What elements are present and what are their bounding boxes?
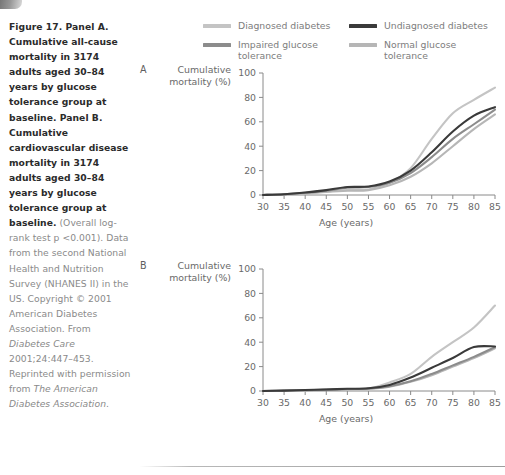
svg-text:100: 100 — [238, 263, 256, 274]
svg-text:75: 75 — [447, 397, 459, 408]
svg-text:50: 50 — [341, 397, 353, 408]
svg-text:30: 30 — [257, 201, 269, 212]
svg-text:80: 80 — [244, 92, 256, 103]
legend-item-normal-glucose-tolerance: Normal glucose tolerance — [349, 39, 503, 62]
svg-text:0: 0 — [250, 189, 256, 200]
svg-text:100: 100 — [238, 67, 256, 78]
caption-journal-name: Diabetes Care — [9, 338, 75, 349]
legend-label-undiagnosed-diabetes: Undiagnosed diabetes — [384, 20, 488, 32]
panel-a-letter: A — [140, 64, 147, 75]
legend-swatch-impaired-glucose-tolerance — [203, 43, 231, 47]
svg-text:55: 55 — [363, 201, 375, 212]
svg-text:45: 45 — [320, 201, 332, 212]
legend-label-diagnosed-diabetes: Diagnosed diabetes — [238, 20, 330, 32]
legend-swatch-diagnosed-diabetes — [203, 24, 231, 28]
legend-label-impaired-glucose-tolerance: Impaired glucose tolerance — [238, 39, 346, 62]
panel-b: B Cumulative mortality (%) 0204060801003… — [131, 258, 505, 448]
svg-text:40: 40 — [244, 337, 256, 348]
svg-text:80: 80 — [244, 288, 256, 299]
svg-text:85: 85 — [489, 201, 501, 212]
svg-text:40: 40 — [299, 397, 311, 408]
svg-text:0: 0 — [250, 385, 256, 396]
caption-text-3: . — [106, 398, 109, 409]
svg-text:60: 60 — [384, 397, 396, 408]
caption-bold-text: Figure 17. Panel A. Cumulative all-cause… — [9, 21, 128, 228]
legend-swatch-undiagnosed-diabetes — [349, 24, 377, 28]
figure-graphic: Diagnosed diabetes Undiagnosed diabetes … — [131, 0, 505, 475]
svg-text:40: 40 — [299, 201, 311, 212]
panel-a-x-axis-title: Age (years) — [231, 217, 461, 228]
panel-a: A Cumulative mortality (%) 0204060801003… — [131, 62, 505, 252]
chart-legend: Diagnosed diabetes Undiagnosed diabetes … — [203, 20, 503, 62]
panel-a-y-axis-title: Cumulative mortality (%) — [155, 64, 231, 89]
svg-text:85: 85 — [489, 397, 501, 408]
svg-text:35: 35 — [278, 201, 290, 212]
svg-text:50: 50 — [341, 201, 353, 212]
legend-label-normal-glucose-tolerance: Normal glucose tolerance — [384, 39, 492, 62]
svg-text:40: 40 — [244, 141, 256, 152]
svg-text:35: 35 — [278, 397, 290, 408]
page-corner-artifact — [0, 0, 22, 9]
caption-text-1: (Overall log-rank test p <0.001). Data f… — [9, 217, 129, 334]
page-bottom-rule — [139, 466, 505, 467]
svg-text:80: 80 — [468, 201, 480, 212]
panel-a-plot: 020406080100303540455055606570758085 — [227, 62, 505, 214]
svg-text:65: 65 — [405, 397, 417, 408]
svg-text:60: 60 — [244, 312, 256, 323]
panel-b-plot: 020406080100303540455055606570758085 — [227, 258, 505, 410]
svg-text:70: 70 — [426, 397, 438, 408]
svg-text:70: 70 — [426, 201, 438, 212]
svg-text:20: 20 — [244, 361, 256, 372]
svg-text:30: 30 — [257, 397, 269, 408]
svg-text:80: 80 — [468, 397, 480, 408]
svg-text:20: 20 — [244, 165, 256, 176]
legend-item-diagnosed-diabetes: Diagnosed diabetes — [203, 20, 349, 32]
legend-swatch-normal-glucose-tolerance — [349, 43, 377, 47]
legend-item-impaired-glucose-tolerance: Impaired glucose tolerance — [203, 39, 349, 62]
figure-caption: Figure 17. Panel A. Cumulative all-cause… — [9, 19, 131, 411]
svg-text:60: 60 — [384, 201, 396, 212]
svg-text:65: 65 — [405, 201, 417, 212]
svg-text:55: 55 — [363, 397, 375, 408]
svg-text:75: 75 — [447, 201, 459, 212]
panel-b-x-axis-title: Age (years) — [231, 413, 461, 424]
legend-item-undiagnosed-diabetes: Undiagnosed diabetes — [349, 20, 503, 32]
svg-text:60: 60 — [244, 116, 256, 127]
svg-text:45: 45 — [320, 397, 332, 408]
panel-b-y-axis-title: Cumulative mortality (%) — [155, 260, 231, 285]
panel-b-letter: B — [140, 260, 147, 271]
